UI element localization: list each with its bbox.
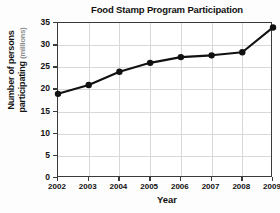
x-axis-tick-mark: [57, 177, 58, 181]
x-axis-tick-label: 2003: [72, 182, 104, 191]
y-axis-tick-label: 15: [28, 106, 50, 116]
y-axis-tick-label: 30: [28, 39, 50, 49]
plot-area: [57, 22, 272, 177]
y-axis-tick-label: 25: [28, 61, 50, 71]
y-axis-tick-mark: [53, 22, 57, 23]
x-axis-tick-label: 2007: [195, 182, 227, 191]
data-point: [55, 91, 61, 97]
data-point: [178, 54, 184, 60]
x-axis-tick-mark: [88, 177, 89, 181]
chart-figure: Food Stamp Program Participation Number …: [0, 0, 280, 213]
y-axis-tick-mark: [53, 111, 57, 112]
x-axis-tick-label: 2004: [102, 182, 134, 191]
y-axis-tick-label: 35: [28, 17, 50, 27]
x-axis-tick-label: 2009: [256, 182, 280, 191]
data-point: [86, 82, 92, 88]
data-series-layer: [58, 23, 273, 178]
y-axis-tick-mark: [53, 133, 57, 134]
y-axis-units: (millions): [18, 27, 27, 58]
x-axis-tick-label: 2005: [133, 182, 165, 191]
data-point: [208, 52, 214, 58]
x-axis-tick-mark: [118, 177, 119, 181]
x-axis-tick-mark: [149, 177, 150, 181]
x-axis-tick-label: 2008: [225, 182, 257, 191]
y-axis-tick-label: 20: [28, 83, 50, 93]
x-axis-title: Year: [56, 194, 278, 205]
y-axis-title-line2: participating (millions): [17, 27, 28, 112]
x-axis-tick-mark: [272, 177, 273, 181]
x-axis-tick-mark: [241, 177, 242, 181]
y-axis-tick-mark: [53, 155, 57, 156]
x-axis-tick-mark: [180, 177, 181, 181]
y-axis-tick-mark: [53, 88, 57, 89]
y-axis-tick-label: 5: [28, 150, 50, 160]
y-axis-tick-mark: [53, 44, 57, 45]
x-axis-tick-label: 2002: [41, 182, 73, 191]
y-axis-tick-label: 10: [28, 128, 50, 138]
y-axis-tick-label: 0: [28, 172, 50, 182]
chart-title: Food Stamp Program Participation: [56, 4, 278, 15]
data-point: [147, 60, 153, 66]
y-axis-tick-mark: [53, 66, 57, 67]
data-point: [116, 69, 122, 75]
data-point: [270, 24, 276, 30]
y-axis-title-line1: Number of persons: [6, 30, 17, 109]
y-axis-title-line2-text: participating: [17, 61, 27, 112]
x-axis-tick-label: 2006: [164, 182, 196, 191]
data-point: [239, 49, 245, 55]
x-axis-tick-mark: [211, 177, 212, 181]
